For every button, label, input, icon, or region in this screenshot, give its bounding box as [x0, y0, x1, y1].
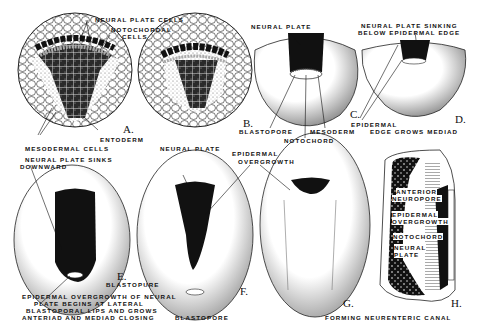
- label-overgrowth-g: OVERGROWTH: [238, 158, 295, 165]
- label-blastopore-c: BLASTOPORE: [239, 128, 293, 135]
- label-overgrowth-h: OVERGROWTH: [392, 218, 449, 225]
- label-entoderm: ENTODERM: [100, 136, 144, 143]
- label-neural-plate-f: NEURAL PLATE: [160, 145, 220, 152]
- panel-g-letter: G.: [343, 297, 354, 309]
- label-cells: CELLS: [122, 33, 148, 40]
- label-neural-h: NEURAL: [394, 244, 426, 251]
- label-neural-plate-cells: NEURAL PLATE CELLS: [95, 16, 184, 23]
- label-anterior: ANTERIOR: [396, 188, 437, 195]
- label-plate-h: PLATE: [394, 251, 419, 258]
- embryology-figure: A. B. C. D. E. F. G. H. NEURAL PLATE CEL…: [0, 0, 487, 336]
- panel-f-letter: F.: [240, 285, 248, 297]
- label-notochord-c: NOTOCHORD: [284, 137, 334, 144]
- label-neuropore: NEUROPORE: [392, 195, 442, 202]
- label-epidermal-overgrowth-2: PLATE BEGINS AT LATERAL: [34, 300, 144, 307]
- label-forming-neurenteric-canal: FORMING NEURENTERIC CANAL: [325, 314, 452, 321]
- panel-d-drawing: [362, 40, 466, 116]
- label-edge-grows-mediad: EDGE GROWS MEDIAD: [370, 128, 458, 135]
- label-neural-plate-sinks: NEURAL PLATE SINKS: [25, 156, 113, 163]
- label-mesodermal-cells: MESODERMAL CELLS: [25, 145, 109, 152]
- panel-c-letter: C.: [350, 108, 360, 120]
- label-epidermal-overgrowth-4: ANTERIAD AND MEDIAD CLOSING: [22, 314, 155, 321]
- panel-h-drawing: [380, 150, 455, 301]
- panel-h-letter: H.: [451, 297, 462, 309]
- label-epidermal-overgrowth-3: BLASTOPORAL LIPS AND GROWS: [26, 307, 158, 314]
- label-mesoderm: MESODERM: [310, 128, 355, 135]
- panel-d-letter: D.: [455, 113, 466, 125]
- label-below-epidermal-edge: BELOW EPIDERMAL EDGE: [358, 29, 460, 36]
- label-neural-plate-c: NEURAL PLATE: [251, 23, 311, 30]
- label-epidermal-h: EPIDERMAL: [392, 211, 438, 218]
- panel-a-letter: A.: [123, 123, 134, 135]
- label-epidermal-overgrowth-1: EPIDERMAL OVERGROWTH OF NEURAL: [22, 293, 177, 300]
- label-notochordal: NOTOCHORDAL: [111, 26, 172, 33]
- label-neural-plate-sinking: NEURAL PLATE SINKING: [361, 22, 458, 29]
- label-notochord-h: NOTOCHORD: [393, 233, 443, 240]
- label-downward: DOWNWARD: [20, 163, 67, 170]
- label-epidermal-g: EPIDERMAL: [232, 150, 278, 157]
- label-epidermal-d: EPIDERMAL: [351, 121, 397, 128]
- label-blastopore-f: BLASTOPORE: [175, 314, 229, 321]
- label-blastopure-e: BLASTOPURE: [106, 281, 160, 288]
